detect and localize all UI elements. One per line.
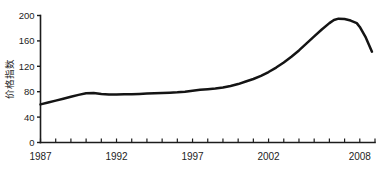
x-tick-label: 1997 — [181, 151, 204, 162]
y-axis-title: 价格指数 — [4, 59, 15, 99]
data-series-group — [41, 19, 372, 105]
x-tick-label: 2002 — [257, 151, 280, 162]
series-line — [41, 19, 372, 105]
x-axis-tick-labels: 19871992199720022008 — [29, 151, 371, 162]
y-axis-title-text: 价格指数 — [4, 59, 15, 99]
chart-plot-area: 04080120160200 19871992199720022008 价格指数 — [0, 0, 379, 172]
y-tick-label: 80 — [24, 86, 35, 97]
x-tick-label: 1992 — [105, 151, 128, 162]
x-tick-label: 1987 — [29, 151, 52, 162]
y-axis-tick-labels: 04080120160200 — [19, 10, 35, 148]
price-index-line-chart: 04080120160200 19871992199720022008 价格指数 — [0, 0, 379, 172]
y-tick-label: 200 — [19, 10, 35, 21]
y-tick-label: 120 — [19, 61, 35, 72]
y-tick-label: 40 — [24, 112, 35, 123]
y-tick-label: 160 — [19, 35, 35, 46]
x-tick-label: 2008 — [349, 151, 372, 162]
y-tick-label: 0 — [29, 137, 34, 148]
